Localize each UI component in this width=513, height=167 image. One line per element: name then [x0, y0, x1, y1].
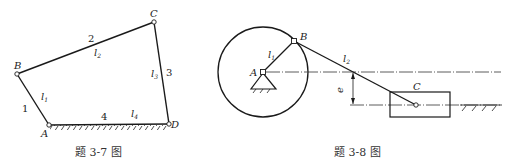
link-number-4: 4: [101, 111, 107, 122]
coupler-bc: [294, 41, 416, 105]
caption-3-8: 题 3-8 图: [334, 146, 381, 159]
label-d: D: [170, 119, 179, 130]
label-a: A: [40, 128, 48, 139]
label-b: B: [299, 31, 307, 42]
label-b: B: [13, 60, 21, 71]
joint-b: [15, 72, 19, 76]
joint-c: [152, 20, 156, 24]
guide-ground-hatch: [462, 106, 496, 111]
joint-b: [292, 39, 297, 44]
link-number-3: 3: [166, 67, 172, 78]
length-label-l1: l1: [41, 91, 48, 103]
figure-3-8: e A B C l1 l2 题 3-8 图: [218, 27, 502, 159]
length-label-l4: l4: [131, 108, 138, 120]
joint-c: [414, 103, 418, 107]
ground-hatch: [50, 125, 168, 130]
link-number-1: 1: [22, 103, 28, 114]
label-c: C: [150, 8, 158, 19]
link-4-ground: [49, 124, 169, 125]
link-number-2: 2: [88, 33, 94, 44]
link-2: [17, 22, 154, 74]
dimension-arrow-up: [351, 73, 355, 79]
figure-3-7: A B C D 1 2 3 4 l1 l2 l3 l4 题 3-7 图: [13, 8, 179, 159]
joint-a: [47, 123, 51, 127]
label-c: C: [413, 81, 421, 92]
label-a: A: [249, 67, 257, 78]
dimension-arrow-down: [351, 98, 355, 104]
length-label-l1: l1: [268, 49, 275, 61]
length-label-l2: l2: [343, 53, 350, 65]
caption-3-7: 题 3-7 图: [75, 146, 122, 159]
joint-a: [261, 70, 266, 75]
length-label-l2: l2: [94, 47, 101, 59]
offset-label-e: e: [334, 87, 345, 93]
length-label-l3: l3: [151, 68, 158, 80]
